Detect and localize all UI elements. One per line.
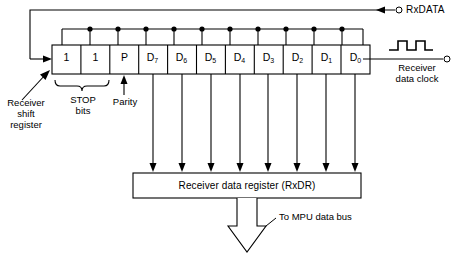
cell-label-d7: D7 <box>138 52 167 64</box>
rxdata-terminal-circle <box>396 7 402 13</box>
rxdata-label: RxDATA <box>406 4 445 15</box>
cell-label-parity: P <box>110 52 139 64</box>
parity-label: Parity <box>104 97 146 108</box>
cell-label-stop2: 1 <box>81 52 110 64</box>
cell-label-d2: D2 <box>283 52 312 64</box>
clock-waveform <box>389 41 433 50</box>
mpu-bus-arrow <box>228 198 266 252</box>
receiver-clock-label-line2: data clock <box>379 74 455 85</box>
stop-bits-brace <box>55 80 109 91</box>
parity-pointer-arrowhead <box>121 75 128 84</box>
rxdata-entry-arrowhead <box>43 56 52 63</box>
cell-label-d5: D5 <box>196 52 225 64</box>
cell-label-stop1: 1 <box>52 52 81 64</box>
receiver-data-register-label: Receiver data register (RxDR) <box>133 180 361 191</box>
rxdata-arrowhead <box>376 7 385 14</box>
cell-label-d0: D0 <box>341 52 370 64</box>
cell-label-d1: D1 <box>312 52 341 64</box>
data-bit-arrowheads <box>150 163 359 172</box>
cell-label-d4: D4 <box>225 52 254 64</box>
cell-label-d3: D3 <box>254 52 283 64</box>
mpu-bus-label: To MPU data bus <box>279 212 352 223</box>
receiver-clock-terminal-circle <box>444 56 450 62</box>
stop-bits-label-line2: bits <box>57 106 109 117</box>
data-bit-lines <box>153 74 355 166</box>
shift-register-label-line3: register <box>0 120 52 131</box>
cell-label-d6: D6 <box>167 52 196 64</box>
receiver-shift-register-diagram <box>0 0 459 260</box>
mpu-bus-leader <box>266 218 276 226</box>
